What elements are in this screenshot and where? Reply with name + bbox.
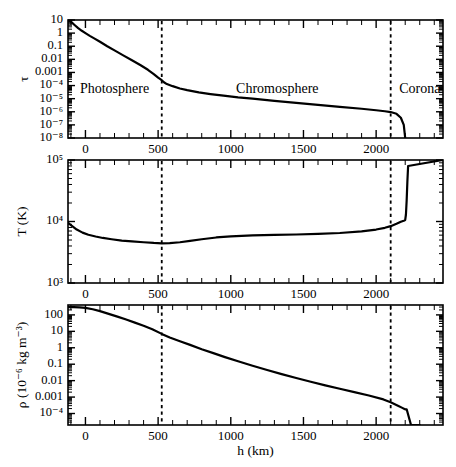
ytick-label-density: 0.001 — [35, 389, 63, 403]
panel-density: 1001010.10.010.00110⁻⁴0500100015002000 — [35, 305, 443, 443]
ytick-label-density: 10 — [51, 323, 64, 337]
ytick-label-temperature: 10⁵ — [46, 152, 63, 166]
xtick-label: 2000 — [363, 428, 389, 443]
ytick-label-density: 1 — [57, 340, 63, 354]
ytick-label-density: 100 — [44, 307, 63, 321]
region-label-corona: Corona — [399, 81, 441, 96]
ytick-label-optical-depth: 10⁻⁸ — [40, 130, 63, 144]
yaxis-title-temperature: T (K) — [14, 206, 29, 236]
panel-temperature: 10⁵10⁴10³0500100015002000 — [46, 152, 443, 301]
ytick-label-temperature: 10³ — [47, 275, 64, 289]
xtick-label: 1500 — [290, 141, 316, 156]
xtick-label: 1500 — [290, 286, 316, 301]
xaxis-title: h (km) — [237, 443, 273, 458]
xtick-label: 0 — [82, 428, 89, 443]
ytick-label-density: 0.1 — [47, 356, 63, 370]
ytick-label-optical-depth: 0.01 — [41, 51, 63, 65]
xtick-label: 2000 — [363, 286, 389, 301]
xtick-label: 1000 — [218, 141, 244, 156]
figure-canvas: 1010.10.010.00110⁻⁴10⁻⁵10⁻⁶10⁻⁷10⁻⁸05001… — [0, 0, 456, 467]
xtick-label: 1000 — [218, 286, 244, 301]
xtick-label: 1500 — [290, 428, 316, 443]
region-label-chromosphere: Chromosphere — [236, 81, 318, 96]
yaxis-title-optical-depth: τ — [16, 76, 31, 82]
xtick-label: 1000 — [218, 428, 244, 443]
ytick-label-density: 0.01 — [41, 373, 63, 387]
ytick-label-density: 10⁻⁴ — [40, 405, 63, 419]
yaxis-title-density: ρ (10⁻⁶ kg m⁻³) — [14, 322, 29, 408]
plot-frame-density — [68, 305, 443, 425]
xtick-label: 500 — [148, 428, 168, 443]
xtick-label: 0 — [82, 286, 89, 301]
solar-atmosphere-figure: 1010.10.010.00110⁻⁴10⁻⁵10⁻⁶10⁻⁷10⁻⁸05001… — [0, 0, 456, 467]
data-curve-density — [68, 307, 420, 425]
ytick-label-optical-depth: 10⁻⁴ — [40, 77, 63, 91]
plot-frame-temperature — [68, 160, 443, 283]
ytick-label-optical-depth: 10⁻⁷ — [40, 117, 63, 131]
plot-frame-optical-depth — [68, 20, 443, 138]
ytick-label-temperature: 10⁴ — [46, 213, 63, 227]
xtick-label: 500 — [148, 286, 168, 301]
ytick-label-optical-depth: 10⁻⁵ — [40, 91, 63, 105]
ytick-label-optical-depth: 0.001 — [35, 64, 63, 78]
ytick-label-optical-depth: 10 — [51, 12, 64, 26]
data-curve-optical-depth — [68, 20, 405, 138]
region-label-photosphere: Photosphere — [80, 81, 149, 96]
ytick-label-optical-depth: 10⁻⁶ — [40, 104, 63, 118]
data-curve-temperature — [68, 160, 443, 243]
xtick-label: 2000 — [363, 141, 389, 156]
ytick-label-optical-depth: 0.1 — [47, 38, 63, 52]
xtick-label: 0 — [82, 141, 89, 156]
xtick-label: 500 — [148, 141, 168, 156]
ytick-label-optical-depth: 1 — [57, 25, 63, 39]
